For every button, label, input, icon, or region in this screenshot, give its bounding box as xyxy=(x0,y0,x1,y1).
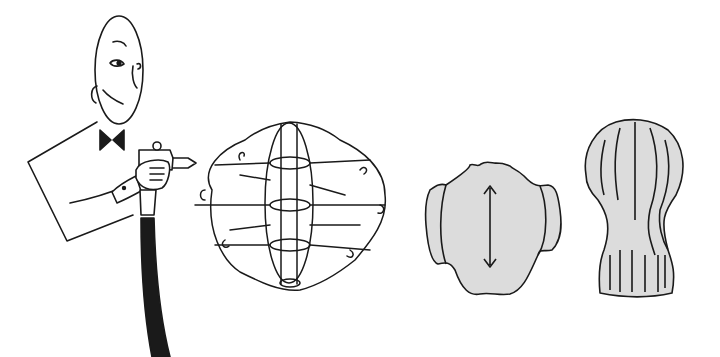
hose xyxy=(141,218,170,357)
bow-tie-icon xyxy=(100,130,124,150)
illustration xyxy=(0,0,720,357)
head xyxy=(95,16,143,124)
wire-frame xyxy=(195,122,385,290)
man-with-spray-gun xyxy=(28,16,196,357)
cocoon-shade-wide xyxy=(426,162,561,294)
cocoon-shade-tall xyxy=(585,120,683,297)
